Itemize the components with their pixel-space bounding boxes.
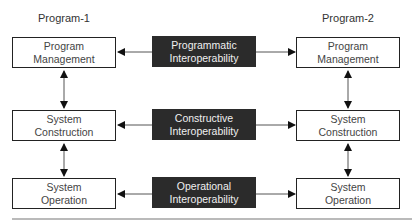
block-line1: Constructive [175,112,233,125]
box-line2: Construction [319,126,378,139]
box-line2: Operation [325,194,371,207]
box-line2: Management [33,53,94,66]
box-line1: System [330,181,365,194]
program-2-management-box: Program Management [296,37,400,68]
block-line2: Interoperability [170,52,239,65]
constructive-interoperability-block: Constructive Interoperability [152,109,256,140]
box-line1: System [46,181,81,194]
column-title-program-2: Program-2 [296,12,400,24]
program-2-construction-box: System Construction [296,110,400,141]
program-1-operation-box: System Operation [12,178,116,209]
block-line2: Interoperability [170,193,239,206]
block-line1: Operational [177,180,231,193]
program-1-management-box: Program Management [12,37,116,68]
box-line1: System [330,113,365,126]
block-line1: Programmatic [171,39,236,52]
box-line1: Program [44,40,84,53]
box-line2: Operation [41,194,87,207]
box-line1: System [46,113,81,126]
column-title-program-1: Program-1 [12,12,116,24]
programmatic-interoperability-block: Programmatic Interoperability [152,36,256,67]
box-line2: Construction [35,126,94,139]
operational-interoperability-block: Operational Interoperability [152,177,256,208]
block-line2: Interoperability [170,125,239,138]
program-2-operation-box: System Operation [296,178,400,209]
box-line2: Management [317,53,378,66]
box-line1: Program [328,40,368,53]
program-1-construction-box: System Construction [12,110,116,141]
